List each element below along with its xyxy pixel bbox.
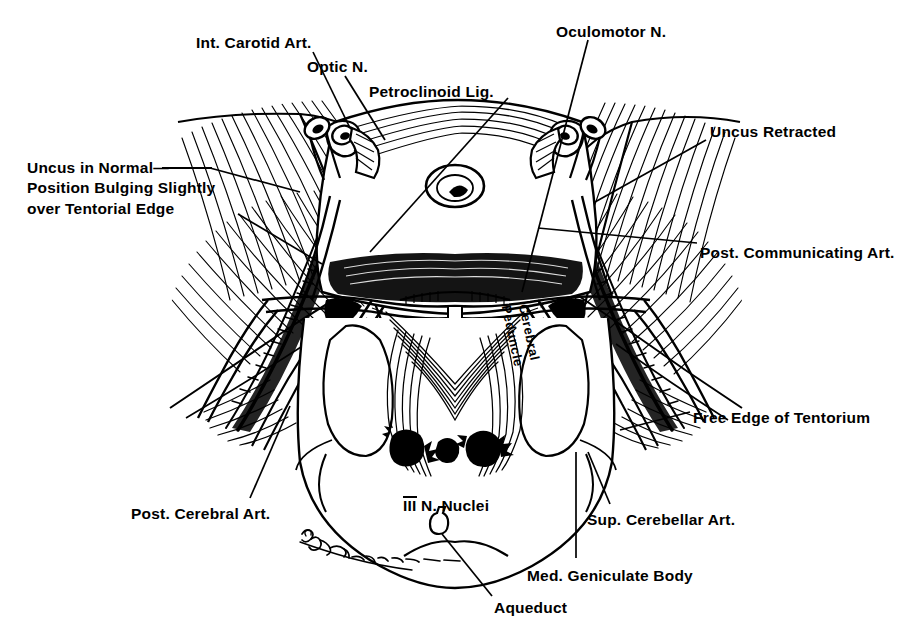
- label-uncus-in-normal-position: Uncus in Normal— Position Bulging Slight…: [27, 158, 215, 219]
- label-aqueduct: Aqueduct: [494, 598, 567, 618]
- label-iii-n-nuclei: III N. Nuclei: [385, 476, 489, 537]
- label-optic-n: Optic N.: [307, 57, 368, 77]
- label-free-edge-of-tentorium: Free Edge of Tentorium: [693, 408, 870, 428]
- label-petroclinoid-lig: Petroclinoid Lig.: [369, 82, 494, 102]
- roman-numeral-three: III: [403, 496, 417, 514]
- anatomical-figure: Int. Carotid Art. Optic N. Petroclinoid …: [0, 0, 910, 639]
- label-sup-cerebellar-art: Sup. Cerebellar Art.: [587, 510, 735, 530]
- cerebral-peduncle-left: [323, 325, 392, 456]
- mammillary-body: [426, 165, 484, 207]
- iii-n-nuclei-text: N. Nuclei: [417, 497, 490, 514]
- interpeduncular-shadow: [328, 253, 583, 302]
- label-post-communicating-art: Post. Communicating Art.: [700, 243, 895, 263]
- label-uncus-retracted: Uncus Retracted: [710, 122, 836, 142]
- label-med-geniculate-body: Med. Geniculate Body: [527, 566, 693, 586]
- label-post-cerebral-art: Post. Cerebral Art.: [131, 504, 270, 524]
- label-oculomotor-n: Oculomotor N.: [556, 22, 666, 42]
- label-int-carotid-art: Int. Carotid Art.: [196, 33, 312, 53]
